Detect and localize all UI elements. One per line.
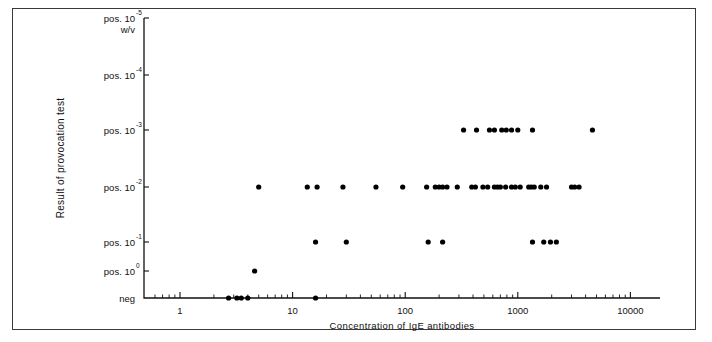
y-tick-exponent: -1	[136, 233, 142, 240]
x-tick-label: 1	[177, 305, 182, 316]
y-tick-label: pos. 10	[104, 70, 135, 81]
y-tick-exponent: -3	[136, 121, 142, 128]
data-point	[461, 127, 466, 132]
data-point	[538, 184, 543, 189]
data-point	[239, 295, 244, 300]
x-axis-title: Concentration of IgE antibodies	[330, 320, 475, 331]
data-point	[513, 184, 518, 189]
data-point	[424, 184, 429, 189]
data-point	[313, 295, 318, 300]
data-point	[340, 184, 345, 189]
data-point	[487, 127, 492, 132]
y-tick-label: neg	[119, 293, 135, 304]
data-point	[313, 239, 318, 244]
data-point	[554, 239, 559, 244]
data-point	[344, 239, 349, 244]
data-point	[518, 184, 523, 189]
y-tick-exponent: -4	[136, 66, 142, 73]
data-point	[314, 184, 319, 189]
data-point	[444, 184, 449, 189]
data-point	[541, 239, 546, 244]
y-tick-label: pos. 10	[104, 13, 135, 24]
data-point	[252, 268, 257, 273]
data-point	[515, 127, 520, 132]
y-tick-exponent: -5	[136, 9, 142, 16]
axis-lines	[144, 18, 660, 298]
data-point	[256, 184, 261, 189]
data-point	[532, 184, 537, 189]
data-point	[544, 184, 549, 189]
data-point	[530, 127, 535, 132]
x-tick-label: 10000	[617, 305, 643, 316]
data-point	[498, 184, 503, 189]
data-point	[499, 127, 504, 132]
axis-labels-group: pos. 10-5w/vpos. 10-4pos. 10-3pos. 10-2p…	[104, 9, 644, 316]
y-tick-label: pos. 10	[104, 237, 135, 248]
data-point	[504, 127, 509, 132]
data-point	[226, 295, 231, 300]
data-point	[485, 184, 490, 189]
y-tick-exponent: -2	[136, 178, 142, 185]
data-point	[576, 184, 581, 189]
data-point	[305, 184, 310, 189]
x-tick-label: 10	[287, 305, 298, 316]
data-points-group	[226, 127, 595, 300]
y-tick-label: pos. 10	[104, 266, 135, 277]
data-point	[480, 184, 485, 189]
data-point	[440, 239, 445, 244]
y-tick-exponent: 0	[136, 262, 140, 269]
chart-svg: pos. 10-5w/vpos. 10-4pos. 10-3pos. 10-2p…	[0, 0, 712, 342]
data-point	[426, 239, 431, 244]
data-point	[548, 239, 553, 244]
data-point	[530, 239, 535, 244]
data-point	[473, 184, 478, 189]
scatter-plot: pos. 10-5w/vpos. 10-4pos. 10-3pos. 10-2p…	[0, 0, 712, 342]
data-point	[492, 127, 497, 132]
data-point	[503, 184, 508, 189]
data-point	[474, 127, 479, 132]
y-tick-label: pos. 10	[104, 125, 135, 136]
data-point	[373, 184, 378, 189]
data-point	[590, 127, 595, 132]
axes-group	[144, 18, 660, 298]
data-point	[400, 184, 405, 189]
x-tick-label: 100	[397, 305, 413, 316]
y-tick-label: pos. 10	[104, 182, 135, 193]
y-tick-sublabel: w/v	[120, 24, 136, 35]
data-point	[245, 295, 250, 300]
y-axis-title: Result of provocation test	[55, 98, 66, 219]
x-tick-label: 1000	[507, 305, 528, 316]
data-point	[455, 184, 460, 189]
data-point	[509, 127, 514, 132]
ticks-group	[144, 18, 630, 298]
